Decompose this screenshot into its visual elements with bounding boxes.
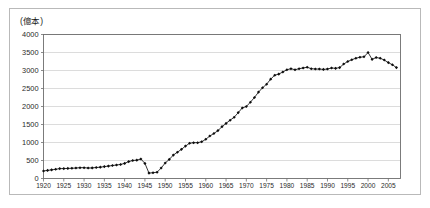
data-point-marker: [334, 67, 337, 70]
data-point-marker: [293, 68, 296, 71]
data-point-marker: [115, 163, 118, 166]
y-tick-label: 2500: [22, 84, 38, 93]
x-tick-label: 1960: [198, 182, 213, 189]
data-point-marker: [54, 168, 57, 171]
x-tick-label: 1940: [117, 182, 132, 189]
data-point-marker: [281, 70, 284, 73]
x-tick-label: 1965: [219, 182, 234, 189]
plot-area-wrapper: 05001000150020002500300035004000 1920192…: [0, 0, 430, 208]
y-tick-label: 4000: [22, 30, 38, 39]
data-point-marker: [302, 66, 305, 69]
x-axis-tick-labels: 1920192519301935194019451950195519601965…: [36, 182, 396, 189]
data-point-marker: [99, 166, 102, 169]
y-tick-label: 500: [26, 156, 38, 165]
x-tick-label: 2000: [361, 182, 376, 189]
data-point-marker: [78, 166, 81, 169]
data-point-marker: [58, 167, 61, 170]
data-point-marker: [330, 66, 333, 69]
y-tick-label: 3500: [22, 48, 38, 57]
x-tick-label: 1990: [320, 182, 335, 189]
chart-figure: (億本) 05001000150020002500300035004000 19…: [0, 0, 430, 208]
x-tick-label: 1955: [178, 182, 193, 189]
data-point-marker: [192, 141, 195, 144]
x-tick-label: 1950: [158, 182, 173, 189]
y-axis-tick-labels: 05001000150020002500300035004000: [22, 30, 38, 183]
y-tick-label: 2000: [22, 102, 38, 111]
x-tick-label: 1970: [239, 182, 254, 189]
data-point-marker: [42, 169, 45, 172]
data-point-marker: [135, 159, 138, 162]
data-point-marker: [46, 169, 49, 172]
x-tick-label: 1980: [280, 182, 295, 189]
data-point-marker: [350, 58, 353, 61]
data-point-marker: [107, 165, 110, 168]
data-point-marker: [318, 68, 321, 71]
data-point-marker: [326, 68, 329, 71]
x-tick-label: 1975: [259, 182, 274, 189]
data-point-marker: [83, 166, 86, 169]
data-point-marker: [50, 168, 53, 171]
data-point-marker: [375, 56, 378, 59]
data-point-marker: [358, 56, 361, 59]
data-point-marker: [103, 165, 106, 168]
data-point-marker: [91, 166, 94, 169]
data-point-marker: [285, 68, 288, 71]
data-point-marker: [131, 159, 134, 162]
gridlines-group: [44, 35, 401, 161]
data-point-marker: [314, 68, 317, 71]
x-tick-label: 1925: [56, 182, 71, 189]
line-chart-svg: 05001000150020002500300035004000 1920192…: [0, 0, 430, 208]
data-point-marker: [123, 162, 126, 165]
data-point-marker: [111, 164, 114, 167]
data-point-marker: [87, 167, 90, 170]
data-point-marker: [151, 171, 154, 174]
x-tick-label: 1945: [138, 182, 153, 189]
data-point-marker: [62, 167, 65, 170]
data-point-marker: [277, 73, 280, 76]
data-point-marker: [298, 67, 301, 70]
data-point-marker: [147, 172, 150, 175]
data-point-marker: [119, 163, 122, 166]
data-point-marker: [196, 141, 199, 144]
data-point-marker: [306, 66, 309, 69]
data-point-marker: [95, 166, 98, 169]
x-tick-label: 2005: [381, 182, 396, 189]
y-tick-label: 3000: [22, 66, 38, 75]
x-tick-label: 1985: [300, 182, 315, 189]
y-tick-label: 1500: [22, 120, 38, 129]
data-point-marker: [310, 67, 313, 70]
data-series-markers: [42, 51, 398, 175]
data-point-marker: [74, 167, 77, 170]
x-tick-label: 1920: [36, 182, 51, 189]
data-point-marker: [289, 67, 292, 70]
data-point-marker: [66, 167, 69, 170]
x-tick-label: 1930: [77, 182, 92, 189]
data-point-marker: [354, 57, 357, 60]
x-tick-label: 1995: [340, 182, 355, 189]
x-tick-label: 1935: [97, 182, 112, 189]
data-point-marker: [70, 167, 73, 170]
y-tick-label: 1000: [22, 138, 38, 147]
data-point-marker: [379, 57, 382, 60]
